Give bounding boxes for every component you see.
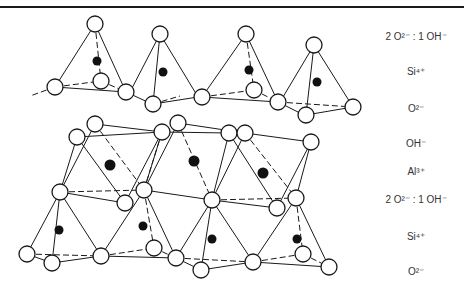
upper-tetrahedra-hidden-edges bbox=[30, 24, 353, 107]
octahedral-sheet-edges bbox=[60, 123, 311, 208]
layer-label-aluminum: Al³⁺ bbox=[364, 166, 468, 177]
layer-label-top-silicon: Si⁴⁺ bbox=[364, 66, 468, 77]
crystal-structure-diagram bbox=[0, 0, 364, 295]
layer-label-bottom-oxygen: O²⁻ bbox=[364, 266, 468, 277]
layer-label-mid-anions: 2 O²⁻ : 1 OH⁻ bbox=[364, 194, 468, 205]
layer-label-hydroxyl: OH⁻ bbox=[364, 138, 468, 149]
layer-label-basal-oxygen: O²⁻ bbox=[364, 103, 468, 114]
layer-label-top-anions: 2 O²⁻ : 1 OH⁻ bbox=[364, 31, 468, 42]
layer-legend: 2 O²⁻ : 1 OH⁻ Si⁴⁺ O²⁻ OH⁻ Al³⁺ 2 O²⁻ : … bbox=[364, 0, 474, 295]
layer-label-bottom-silicon: Si⁴⁺ bbox=[364, 231, 468, 242]
anion-atoms bbox=[19, 16, 361, 278]
